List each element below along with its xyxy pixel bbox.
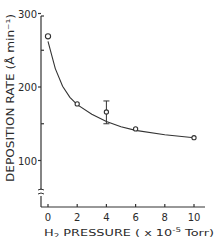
- y-tick-label: 100: [18, 156, 37, 167]
- data-point-marker: [192, 136, 196, 140]
- x-tick-label: 2: [74, 212, 80, 223]
- data-point-marker: [75, 102, 79, 106]
- y-tick-label: 200: [18, 82, 37, 93]
- x-tick-label: 4: [103, 212, 109, 223]
- fit-curve: [48, 41, 194, 137]
- data-points: [45, 34, 196, 140]
- y-tick-label: 300: [18, 9, 37, 20]
- x-tick-label: 10: [188, 212, 201, 223]
- x-tick-label: 0: [45, 212, 51, 223]
- x-tick-label: 6: [132, 212, 138, 223]
- y-axis-label: DEPOSITION RATE (Å min⁻¹): [4, 14, 16, 182]
- deposition-rate-chart: 1002003000246810H2 PRESSURE ( x 10-5 Tor…: [0, 0, 219, 237]
- axes: [38, 14, 205, 208]
- data-point-marker: [104, 110, 108, 114]
- x-tick-label: 8: [162, 212, 168, 223]
- fit-curve-line: [48, 41, 194, 137]
- x-axis-label: H2 PRESSURE ( x 10-5 Torr): [44, 226, 214, 237]
- data-point-marker: [134, 127, 138, 131]
- data-point-marker: [45, 34, 50, 39]
